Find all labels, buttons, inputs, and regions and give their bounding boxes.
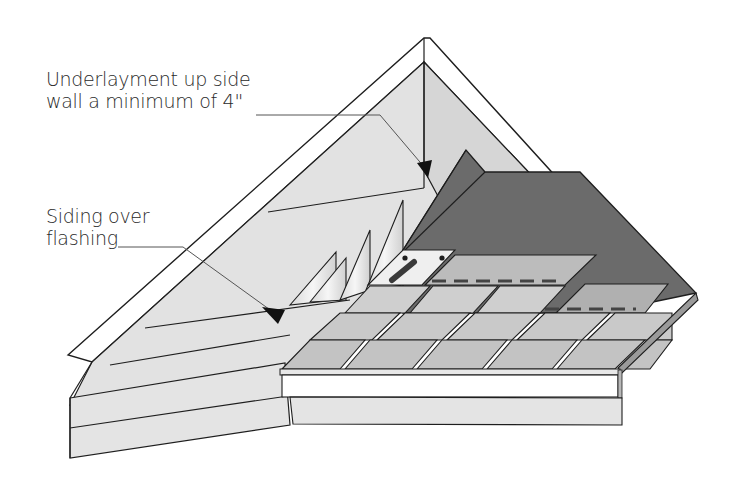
callout-underlayment-line1: Underlayment up side [46, 68, 250, 90]
callout-siding-label: Siding over flashing [46, 205, 149, 249]
callout-siding-line1: Siding over [46, 205, 149, 227]
callout-underlayment-line2: wall a minimum of 4" [46, 90, 250, 112]
fascia-board [280, 369, 622, 398]
callout-underlayment-label: Underlayment up side wall a minimum of 4… [46, 68, 250, 112]
eave-wall [290, 397, 622, 425]
nail-hole-icon [402, 255, 407, 260]
callout-siding-line2: flashing [46, 227, 149, 249]
nail-hole-icon [439, 255, 444, 260]
